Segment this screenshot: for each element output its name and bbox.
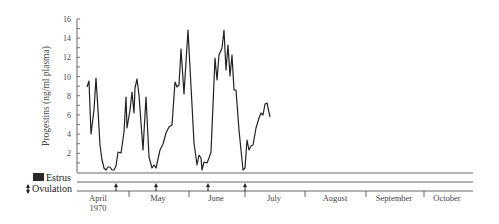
y-axis: 246810121416 [63,15,80,173]
y-tick-label: 10 [63,73,71,82]
month-labels: April1970MayJuneJulyAugustSeptemberOctob… [89,193,461,213]
y-tick-label: 4 [67,130,71,139]
month-label-june: June [208,193,224,203]
ovulation-arrow-icon [243,183,247,187]
progestin-line [87,30,270,170]
year-label: 1970 [90,203,107,213]
y-tick-label: 14 [63,34,71,43]
y-tick-label: 2 [67,149,71,158]
month-label-may: May [150,193,166,203]
ovulation-arrow-icon [206,183,210,187]
ovulation-arrow-icon [114,183,118,187]
y-tick-label: 8 [67,92,71,101]
y-tick-label: 12 [63,53,71,62]
y-tick-label: 16 [63,15,71,24]
ovulation-arrow-icon [26,184,30,194]
month-label-august: August [323,193,348,203]
month-label-april: April [89,193,108,203]
month-label-october: October [433,193,461,203]
estrus-legend-swatch [33,173,44,181]
progestin-chart: 246810121416 Progestins (ng/ml plasma) A… [0,0,499,224]
ovulation-markers [114,183,247,191]
legend: Estrus Ovulation [26,172,72,194]
y-tick-label: 6 [67,111,71,120]
ovulation-legend-label: Ovulation [32,183,72,194]
month-label-september: September [376,193,413,203]
ovulation-arrow-icon [154,183,158,187]
estrus-legend-label: Estrus [46,172,71,183]
y-axis-label: Progestins (ng/ml plasma) [41,46,52,146]
month-label-july: July [267,193,282,203]
